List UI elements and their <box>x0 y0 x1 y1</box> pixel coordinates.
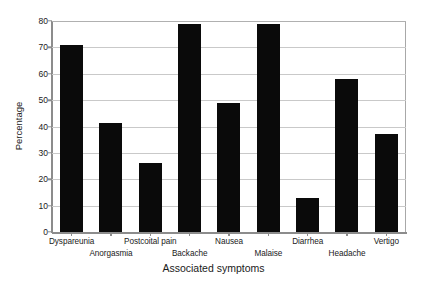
bar <box>60 45 83 232</box>
y-tick-mark <box>48 20 52 21</box>
x-axis-tick-labels: DyspareuniaAnorgasmiaPostcoital painBack… <box>0 235 427 265</box>
y-tick-mark <box>48 99 52 100</box>
y-tick-label: 60 <box>39 69 48 79</box>
y-tick-mark <box>48 231 52 232</box>
y-tick-label: 10 <box>39 201 48 211</box>
y-tick-label: 80 <box>39 16 48 26</box>
gridline <box>52 47 406 48</box>
bar <box>335 79 358 232</box>
y-tick-label: 50 <box>39 95 48 105</box>
y-tick-label: 20 <box>39 174 48 184</box>
gridline <box>52 74 406 75</box>
y-tick-mark <box>48 152 52 153</box>
y-tick-mark <box>48 47 52 48</box>
bar <box>99 123 122 232</box>
gridline <box>52 21 406 22</box>
y-tick-label: 30 <box>39 148 48 158</box>
y-tick-mark <box>48 73 52 74</box>
bar <box>296 198 319 232</box>
y-tick-mark <box>48 126 52 127</box>
x-tick-label: Diarrhea <box>292 237 323 246</box>
plot-area: 01020304050607080 <box>52 21 406 232</box>
x-tick-label: Postcoital pain <box>124 237 177 246</box>
y-tick-label: 70 <box>39 42 48 52</box>
bar <box>139 163 162 232</box>
y-tick-mark <box>48 205 52 206</box>
y-axis-title: Percentage <box>10 18 26 233</box>
bar <box>375 134 398 232</box>
bar-chart: Percentage 01020304050607080 Dyspareunia… <box>0 0 427 285</box>
bar <box>178 24 201 232</box>
x-tick-label: Headache <box>329 249 366 258</box>
x-axis-title: Associated symptoms <box>0 262 427 274</box>
x-tick-label: Nausea <box>215 237 243 246</box>
x-tick-label: Anorgasmia <box>89 249 132 258</box>
bar <box>257 24 280 232</box>
y-tick-label: 40 <box>39 122 48 132</box>
x-tick-label: Vertigo <box>374 237 399 246</box>
bar <box>217 103 240 232</box>
x-tick-label: Backache <box>172 249 208 258</box>
y-axis-title-label: Percentage <box>13 101 24 150</box>
x-tick-label: Dyspareunia <box>49 237 94 246</box>
y-tick-mark <box>48 179 52 180</box>
x-tick-label: Malaise <box>254 249 282 258</box>
